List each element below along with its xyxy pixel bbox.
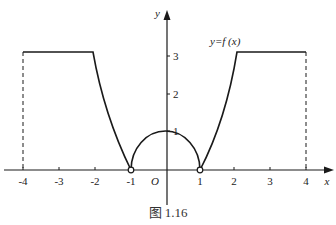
x-axis-label: x	[324, 175, 330, 187]
y-axis-label: y	[154, 7, 160, 19]
open-point-right	[197, 167, 203, 173]
x-tick-label: 2	[231, 175, 237, 187]
y-axis-arrow-icon	[164, 10, 171, 20]
x-tick-label: -2	[90, 175, 99, 187]
curve-left	[23, 52, 131, 170]
y-tick-label: 2	[173, 88, 179, 100]
function-graph: -4 -3 -2 -1 1 2 3 4 O x 1 2 3 y y=f (x) …	[0, 0, 336, 225]
x-tick-label: 1	[197, 175, 203, 187]
figure-caption: 图 1.16	[149, 205, 189, 220]
x-tick-label: -4	[18, 175, 28, 187]
x-tick-label: 3	[267, 175, 273, 187]
x-tick-label: 4	[303, 175, 309, 187]
semicircle	[131, 131, 200, 170]
function-label: y=f (x)	[209, 35, 241, 48]
y-tick-label: 3	[173, 50, 179, 62]
x-tick-label: -3	[54, 175, 64, 187]
curve-right	[200, 52, 306, 170]
open-point-left	[128, 167, 134, 173]
origin-label: O	[151, 175, 159, 187]
x-tick-label: -1	[126, 175, 135, 187]
x-axis-arrow-icon	[324, 167, 334, 174]
y-tick-label: 1	[173, 125, 179, 137]
